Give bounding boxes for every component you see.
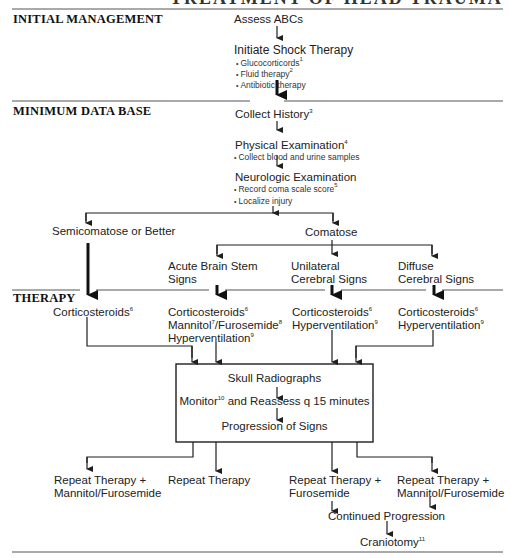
node-craniotomy: Craniotomy11 — [360, 536, 425, 549]
node-neurologic-examination: Neurologic Examination — [235, 171, 356, 184]
outcome-repeat-therapy: Repeat Therapy — [168, 474, 250, 487]
therapy-col-semicomatose: Corticosteroids6 — [53, 306, 133, 319]
therapy-col-unilateral: Corticosteroids6 Hyperventilation9 — [292, 306, 378, 332]
node-initiate-shock-therapy: Initiate Shock Therapy — [234, 44, 353, 57]
item-collect-samples: Collect blood and urine samples — [234, 152, 359, 163]
outcome-repeat-furosemide: Repeat Therapy +Furosemide — [289, 474, 381, 500]
outcome-repeat-mannitol-right: Repeat Therapy +Mannitol/Furosemide — [397, 474, 504, 500]
node-comatose: Comatose — [305, 226, 357, 239]
item-record-coma-scale: Record coma scale score5 — [234, 184, 338, 195]
box-progression-of-signs: Progression of Signs — [176, 420, 373, 433]
node-semicomatose: Semicomatose or Better — [52, 225, 175, 238]
item-antibiotic-therapy: Antibiotic therapy — [236, 80, 306, 91]
item-fluid-therapy: Fluid therapy2 — [236, 69, 293, 80]
node-acute-brain-stem: Acute Brain StemSigns — [168, 260, 257, 286]
box-monitor-reassess: Monitor10 and Reassess q 15 minutes — [176, 395, 373, 408]
node-diffuse-cerebral: DiffuseCerebral Signs — [398, 260, 474, 286]
node-physical-examination: Physical Examination4 — [235, 139, 348, 152]
outcome-repeat-mannitol-left: Repeat Therapy +Mannitol/Furosemide — [54, 474, 161, 500]
page-title-cut: TREATMENT OF HEAD TRAUMA — [170, 0, 503, 9]
section-initial-management: INITIAL MANAGEMENT — [13, 12, 163, 27]
item-localize-injury: Localize injury — [234, 196, 292, 207]
section-minimum-data-base: MINIMUM DATA BASE — [13, 104, 151, 119]
therapy-col-diffuse: Corticosteroids6 Hyperventilation9 — [398, 306, 484, 332]
therapy-col-acute-brain-stem: Corticosteroids6 Mannitol7/Furosemide8 H… — [168, 306, 282, 345]
node-collect-history: Collect History3 — [235, 108, 312, 121]
box-skull-radiographs: Skull Radiographs — [176, 372, 373, 385]
node-assess-abcs: Assess ABCs — [234, 13, 303, 26]
node-unilateral-cerebral: UnilateralCerebral Signs — [291, 260, 367, 286]
node-continued-progression: Continued Progression — [328, 510, 445, 523]
section-therapy: THERAPY — [13, 291, 76, 306]
